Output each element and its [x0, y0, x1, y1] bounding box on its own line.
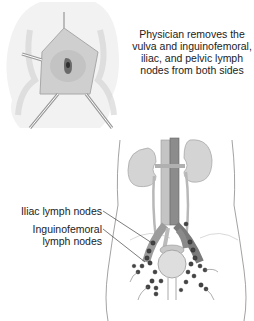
- procedure-caption: Physician removes the vulva and inguinof…: [130, 28, 254, 76]
- label-iliac-lymph-nodes: Iliac lymph nodes: [2, 205, 102, 217]
- caption-line: iliac, and pelvic lymph: [130, 52, 254, 64]
- leader-line-iliac: [103, 211, 152, 243]
- label-inguinofemoral-lymph-nodes: Inguinofemoral lymph nodes: [2, 223, 102, 247]
- label-line: Inguinofemoral: [2, 223, 102, 235]
- caption-line: Physician removes the: [130, 28, 254, 40]
- caption-line: vulva and inguinofemoral,: [130, 40, 254, 52]
- label-line: lymph nodes: [2, 235, 102, 247]
- caption-line: nodes from both sides: [130, 64, 254, 76]
- vulvectomy-view: [6, 2, 119, 128]
